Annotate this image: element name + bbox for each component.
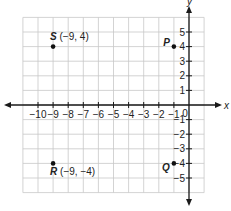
x-axis-label: x [223, 100, 230, 111]
point-coordinates: (−9, 4) [57, 31, 89, 42]
x-tick-label: −3 [138, 109, 150, 120]
y-tick-label: −1 [174, 114, 186, 125]
point-dot-icon [51, 44, 56, 49]
y-tick-label: −5 [174, 173, 186, 184]
y-tick-label: 2 [179, 70, 185, 81]
y-tick-label: −2 [174, 129, 186, 140]
x-axis-left-arrow-icon [4, 102, 11, 108]
point-dot-icon [172, 161, 177, 166]
point-dot-icon [51, 161, 56, 166]
point-name: Q [162, 162, 170, 173]
x-tick-label: −8 [62, 109, 74, 120]
point-label: P [163, 37, 170, 48]
x-tick-label: −5 [108, 109, 120, 120]
point-coordinates: (−9, −4) [57, 166, 95, 177]
y-tick-label: 3 [179, 56, 185, 67]
y-axis-label: y [186, 0, 193, 7]
x-tick-label: −9 [47, 109, 59, 120]
x-tick-label: −7 [78, 109, 90, 120]
x-tick-label: −2 [153, 109, 165, 120]
x-tick-label: −4 [123, 109, 135, 120]
x-tick-label: −10 [30, 109, 47, 120]
y-axis-down-arrow-icon [186, 199, 192, 206]
y-axis-up-arrow-icon [186, 6, 192, 13]
x-tick-label: −6 [93, 109, 105, 120]
point-label: S (−9, 4) [50, 31, 89, 42]
point-name: P [163, 37, 170, 48]
y-tick-label: 1 [179, 85, 185, 96]
point-label: R (−9, −4) [50, 166, 95, 177]
x-axis-right-arrow-icon [215, 102, 222, 108]
y-tick-label: 4 [179, 41, 185, 52]
y-tick-label: −3 [174, 143, 186, 154]
coordinate-plane: xy −10−9−8−7−6−5−4−3−2−1054321−1−2−3−4−5… [0, 0, 231, 211]
point-dot-icon [172, 44, 177, 49]
y-tick-label: 5 [179, 27, 185, 38]
point-label: Q [162, 162, 170, 173]
